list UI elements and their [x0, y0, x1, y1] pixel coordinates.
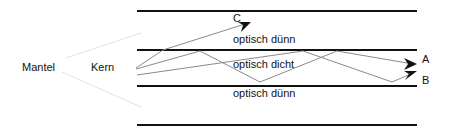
- ray-a-arrowhead: [404, 58, 417, 70]
- ray-c-label: C: [233, 13, 241, 24]
- fiber-diagram: [0, 0, 450, 134]
- ray-b-label: B: [422, 75, 429, 86]
- core-label: optisch dicht: [233, 59, 294, 70]
- ray-a-label: A: [422, 54, 429, 65]
- mantel-label: Mantel: [22, 62, 55, 73]
- mantel-guide-bottom: [62, 72, 141, 107]
- mantel-guide-top: [66, 33, 141, 58]
- kern-label: Kern: [91, 62, 114, 73]
- bottom-cladding-label: optisch dünn: [233, 88, 295, 99]
- top-cladding-label: optisch dünn: [233, 34, 295, 45]
